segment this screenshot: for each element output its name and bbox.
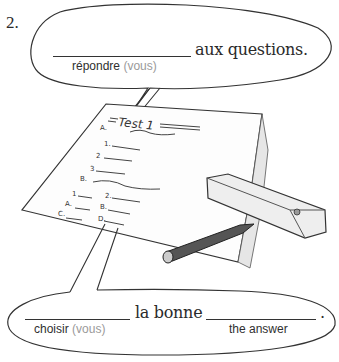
svg-text:C.: C. <box>58 210 65 218</box>
svg-text:1.: 1. <box>104 140 111 148</box>
answer-blank-choisir[interactable] <box>25 319 130 320</box>
svg-text:3: 3 <box>90 165 94 173</box>
hint-subject: (vous) <box>72 322 105 336</box>
sentence-aux-questions: aux questions. <box>195 40 308 59</box>
svg-text:D.: D. <box>98 215 106 223</box>
svg-text:B.: B. <box>80 175 87 183</box>
svg-text:2.: 2. <box>105 192 112 200</box>
hint-repondre-vous: répondre (vous) <box>72 59 157 73</box>
svg-text:2: 2 <box>96 152 100 160</box>
svg-text:A.: A. <box>65 200 72 208</box>
sentence-la-bonne: la bonne <box>135 303 202 322</box>
hint-verb: choisir <box>34 322 69 336</box>
sentence-period: . <box>320 303 325 322</box>
hint-subject: (vous) <box>123 59 156 73</box>
hint-the-answer: the answer <box>229 322 288 336</box>
hint-choisir-vous: choisir (vous) <box>34 322 105 336</box>
hint-verb: répondre <box>72 59 120 73</box>
answer-blank-the-answer[interactable] <box>206 319 316 320</box>
answer-blank-repondre[interactable] <box>53 56 191 57</box>
svg-text:B.: B. <box>100 203 107 211</box>
svg-text:1: 1 <box>72 190 76 198</box>
svg-text:A.: A. <box>100 124 107 132</box>
